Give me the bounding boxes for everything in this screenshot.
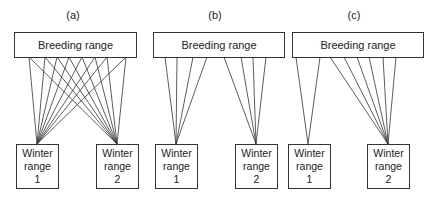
winter-label-line2: range <box>296 160 323 173</box>
panel-b-winter-range-2: Winter range 2 <box>235 144 278 189</box>
connection-lines <box>0 0 426 200</box>
winter-label-line3: 1 <box>174 173 180 186</box>
panel-b-label: (b) <box>200 9 230 21</box>
winter-label-line1: Winter <box>102 147 132 160</box>
panel-a-winter-range-1: Winter range 1 <box>16 144 59 189</box>
panel-b-lines <box>165 57 266 144</box>
panel-a-label: (a) <box>58 9 88 21</box>
winter-label-line3: 1 <box>35 173 41 186</box>
panel-a-lines <box>29 57 126 144</box>
winter-label-line2: range <box>375 160 402 173</box>
panel-c-winter-range-1: Winter range 1 <box>288 144 331 189</box>
winter-label-line3: 2 <box>254 173 260 186</box>
panel-c-lines <box>296 57 396 144</box>
winter-label-line2: range <box>104 160 131 173</box>
winter-label-line2: range <box>24 160 51 173</box>
winter-label-line3: 1 <box>307 173 313 186</box>
winter-label-line1: Winter <box>294 147 324 160</box>
winter-label-line3: 2 <box>115 173 121 186</box>
winter-label-line1: Winter <box>241 147 271 160</box>
panel-b-breeding-range: Breeding range <box>153 32 285 58</box>
winter-label-line3: 2 <box>386 173 392 186</box>
panel-b-winter-range-1: Winter range 1 <box>155 144 198 189</box>
panel-c-breeding-range: Breeding range <box>292 32 424 58</box>
winter-label-line2: range <box>243 160 270 173</box>
winter-label-line1: Winter <box>22 147 52 160</box>
winter-label-line1: Winter <box>373 147 403 160</box>
winter-label-line1: Winter <box>161 147 191 160</box>
panel-a-winter-range-2: Winter range 2 <box>96 144 139 189</box>
panel-c-label: (c) <box>339 9 369 21</box>
panel-c-winter-range-2: Winter range 2 <box>367 144 410 189</box>
winter-label-line2: range <box>163 160 190 173</box>
panel-a-breeding-range: Breeding range <box>14 32 137 58</box>
